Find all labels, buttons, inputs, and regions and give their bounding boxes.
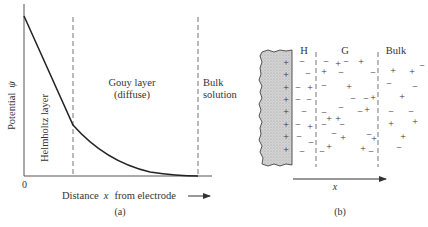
electrode-plus-charge: + <box>283 106 289 117</box>
bulk-solution-label: Bulk <box>203 77 224 88</box>
anion: − <box>331 128 337 139</box>
anion: − <box>363 93 369 104</box>
cation: + <box>326 113 332 124</box>
anion: − <box>357 106 363 117</box>
anion: − <box>368 146 374 157</box>
anion: − <box>350 93 356 104</box>
anion: − <box>295 119 301 130</box>
anion: − <box>295 82 301 93</box>
potential-curve <box>24 16 198 176</box>
origin-label: 0 <box>22 179 27 190</box>
anion: − <box>412 81 418 92</box>
anion: − <box>305 68 311 79</box>
anion: − <box>339 119 345 130</box>
bulk-solution-label-line2: solution <box>203 89 238 100</box>
electrode-plus-charge: + <box>283 144 289 155</box>
anion: − <box>299 146 305 157</box>
cation: + <box>400 131 406 142</box>
cation: + <box>399 91 405 102</box>
cation: + <box>340 132 346 143</box>
cation: + <box>358 56 364 67</box>
cation: + <box>371 133 377 144</box>
anion: − <box>396 142 402 153</box>
cation: + <box>409 66 415 77</box>
gouy-diffuse-label: (diffuse) <box>114 89 150 101</box>
electrode-plus-charge: + <box>283 94 289 105</box>
anion: − <box>301 106 307 117</box>
anion: − <box>308 137 314 148</box>
cation: + <box>326 141 332 152</box>
cation: + <box>321 66 327 77</box>
cation: + <box>364 104 370 115</box>
electrode-plus-charge: + <box>283 82 289 93</box>
anion: − <box>306 94 312 105</box>
double-layer-figure: Potentialψ Helmholtz layer Gouy layer (d… <box>0 0 428 227</box>
helmholtz-layer-ions: − − − + − − − − + − − − <box>295 56 314 157</box>
anion: − <box>319 146 325 157</box>
caption-a: (a) <box>114 206 125 218</box>
bulk-region-label: Bulk <box>386 45 407 56</box>
cation: + <box>412 116 418 127</box>
panel-a-potential-plot: Potentialψ Helmholtz layer Gouy layer (d… <box>6 4 238 218</box>
anion: − <box>338 102 344 113</box>
cation: + <box>346 81 352 92</box>
anion: − <box>296 131 302 142</box>
cation: + <box>388 118 394 129</box>
anion: − <box>370 67 376 78</box>
caption-b: (b) <box>334 206 346 218</box>
electrode-plus-charge: + <box>283 69 289 80</box>
cation: + <box>307 121 313 132</box>
anion: − <box>321 119 327 130</box>
anion: − <box>321 80 327 91</box>
electrode-plus-charge: + <box>283 119 289 130</box>
gouy-layer-label: Gouy layer <box>109 77 156 88</box>
electrode-plus-charge: + <box>283 57 289 68</box>
x-axis-label: Distancexfrom electrode <box>62 190 176 201</box>
gouy-layer-ions: − + − + + − − − + − − + − − + − + + − − … <box>319 56 377 157</box>
cation: + <box>360 143 366 154</box>
helmholtz-region-label: H <box>300 45 308 56</box>
bulk-ions: + + − − − + − − + + + − <box>386 60 425 153</box>
anion: − <box>343 56 349 67</box>
anion: − <box>295 94 301 105</box>
electrode-plus-charge: + <box>283 131 289 142</box>
panel-b-ion-distribution: + + + + + + + + H G Bulk − − − + − − − −… <box>259 45 425 218</box>
helmholtz-layer-label: Helmholtz layer <box>39 94 50 162</box>
y-axis-label: Potentialψ <box>6 81 17 130</box>
anion: − <box>388 106 394 117</box>
x-direction-symbol: x <box>332 181 338 192</box>
cation: + <box>390 65 396 76</box>
gouy-region-label: G <box>341 45 349 56</box>
electrode-charges: + + + + + + + + <box>283 57 289 155</box>
anion: − <box>386 78 392 89</box>
anion: − <box>299 56 305 67</box>
cation: + <box>370 92 376 103</box>
anion: − <box>338 67 344 78</box>
cation: + <box>307 82 313 93</box>
anion: − <box>419 60 425 71</box>
